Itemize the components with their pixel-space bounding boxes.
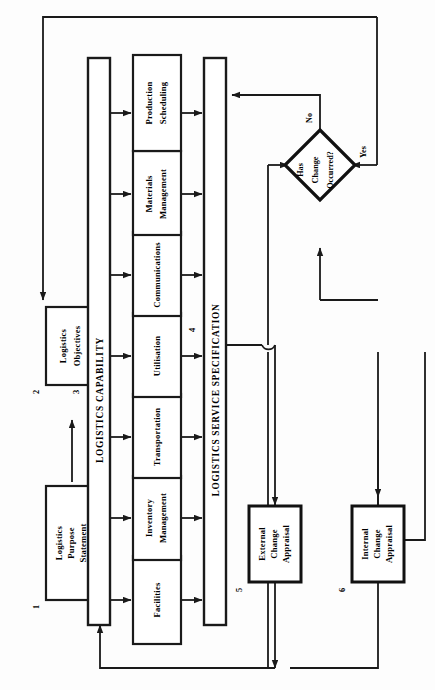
objectives-line2: Objectives bbox=[72, 325, 82, 366]
node-external-change-appraisal[interactable]: External Change Appraisal bbox=[249, 506, 301, 582]
production-line1: Production bbox=[144, 82, 154, 125]
decision-no-label: No bbox=[305, 113, 314, 123]
internal-line1: Internal bbox=[360, 528, 370, 560]
node-number-4: 4 bbox=[188, 327, 197, 332]
facilities-line1: Facilities bbox=[152, 582, 162, 617]
node-number-1: 1 bbox=[32, 605, 41, 609]
node-decision-has-change-occurred[interactable]: Has Change Occurred? bbox=[285, 130, 355, 200]
production-line2: Scheduling bbox=[158, 81, 168, 124]
decision-line1: Has bbox=[296, 163, 305, 177]
node-logistics-capability-bar[interactable]: LOGISTICS CAPABILITY bbox=[88, 58, 110, 625]
purpose-statement-line1: Logistics bbox=[54, 525, 64, 560]
external-line2: Change bbox=[269, 529, 279, 558]
communications-line1: Communications bbox=[152, 242, 162, 308]
capability-box-utilisation[interactable]: Utilisation bbox=[133, 313, 181, 397]
connector-no-branch bbox=[232, 95, 320, 130]
node-number-5: 5 bbox=[235, 588, 244, 592]
decision-yes-label: Yes bbox=[359, 146, 368, 158]
internal-line2: Change bbox=[372, 529, 382, 558]
capability-box-communications[interactable]: Communications bbox=[133, 232, 181, 316]
capability-box-inventory-management[interactable]: Inventory Management bbox=[133, 476, 181, 560]
node-internal-change-appraisal[interactable]: Internal Change Appraisal bbox=[352, 506, 404, 582]
node-number-6: 6 bbox=[338, 588, 347, 592]
transportation-line1: Transportation bbox=[152, 408, 162, 467]
purpose-statement-line2: Purpose bbox=[66, 527, 76, 558]
utilisation-line1: Utilisation bbox=[152, 336, 162, 376]
node-number-2: 2 bbox=[32, 390, 41, 394]
node-logistics-service-specification-bar[interactable]: LOGISTICS SERVICE SPECIFICATION bbox=[204, 58, 226, 625]
flowchart-canvas: Logistics Purpose Statement 1 Logistics … bbox=[0, 0, 435, 690]
objectives-line1: Logistics bbox=[58, 328, 68, 363]
capability-box-materials-management[interactable]: Materials Management bbox=[133, 151, 181, 235]
external-line3: Appraisal bbox=[281, 525, 291, 564]
capability-box-production-scheduling[interactable]: Production Scheduling bbox=[133, 55, 181, 151]
connector-internal-to-bottom-rail bbox=[290, 582, 378, 668]
line-hop-symbol bbox=[262, 345, 275, 349]
internal-line3: Appraisal bbox=[384, 525, 394, 564]
purpose-statement-line3: Statement bbox=[78, 523, 88, 562]
connector-internal-side-rail bbox=[404, 352, 425, 540]
materials-line2: Management bbox=[158, 169, 168, 219]
capability-box-facilities[interactable]: Facilities bbox=[133, 556, 181, 644]
inventory-line2: Management bbox=[158, 493, 168, 543]
capability-bar-label: LOGISTICS CAPABILITY bbox=[95, 337, 105, 463]
materials-line1: Materials bbox=[144, 175, 154, 213]
decision-line3: Occurred? bbox=[326, 151, 335, 189]
specification-bar-label: LOGISTICS SERVICE SPECIFICATION bbox=[211, 303, 221, 496]
external-line1: External bbox=[257, 527, 267, 561]
inventory-line1: Inventory bbox=[144, 498, 154, 537]
capability-box-transportation[interactable]: Transportation bbox=[133, 394, 181, 478]
connector-bottom-rail-to-capability bbox=[100, 625, 275, 668]
decision-line2: Change bbox=[311, 156, 320, 183]
node-number-3: 3 bbox=[72, 390, 81, 394]
